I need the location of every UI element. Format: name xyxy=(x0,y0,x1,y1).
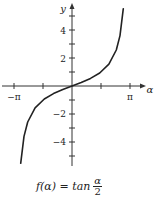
y-axis-arrow-icon xyxy=(70,3,75,9)
x-tick-label-neg-pi: −π xyxy=(7,92,21,102)
chart-plot: y α −π π 4 2 −2 −4 xyxy=(0,0,159,199)
y-tick-label-2: 2 xyxy=(60,54,66,64)
caption-numerator: α xyxy=(93,176,102,187)
chart-caption: f(α) = tan α 2 xyxy=(36,174,106,198)
y-tick-label-4: 4 xyxy=(60,26,66,36)
y-axis-label: y xyxy=(59,3,66,14)
caption-denominator: 2 xyxy=(95,187,101,197)
x-axis-label: α xyxy=(147,84,154,95)
x-axis-arrow-icon xyxy=(140,84,146,89)
caption-fraction: α 2 xyxy=(93,176,102,197)
y-tick-label-neg-4: −4 xyxy=(53,137,67,147)
y-tick-label-neg-2: −2 xyxy=(53,109,66,119)
caption-function: f(α) = tan xyxy=(36,180,90,193)
x-tick-label-pi: π xyxy=(127,92,133,102)
